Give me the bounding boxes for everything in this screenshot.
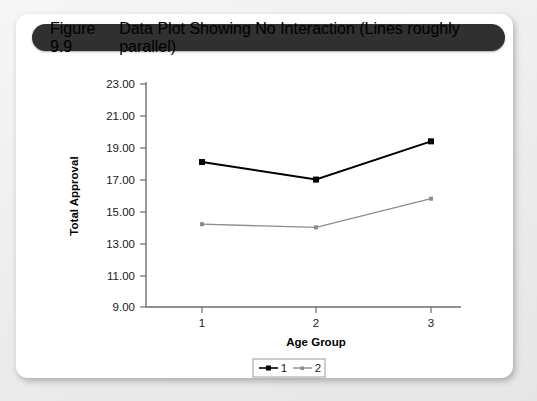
series-line-1 [202, 141, 431, 179]
y-axis-title: Total Approval [68, 156, 80, 235]
y-tick-label-17: 17.00 [106, 174, 135, 186]
data-point-series-1-2 [313, 177, 319, 183]
y-tick-label-15: 15.00 [106, 206, 135, 218]
chart-legend: 1 2 [253, 359, 325, 377]
x-tick-label-2: 2 [313, 317, 319, 329]
legend-label-series-1: 1 [281, 362, 287, 374]
chart-plot-area: 23.00 21.00 19.00 17.00 15.00 13.00 11.0… [16, 51, 513, 378]
y-tick-label-19: 19.00 [106, 142, 135, 154]
data-point-series-2-1 [200, 222, 204, 226]
x-axis-ticks [202, 307, 431, 313]
x-tick-label-3: 3 [428, 317, 434, 329]
x-axis-title: Age Group [286, 336, 345, 348]
legend-marker-series-2 [301, 367, 305, 371]
data-series-layer [199, 138, 434, 229]
series-line-2 [202, 199, 431, 228]
legend-label-series-2: 2 [315, 362, 321, 374]
x-tick-label-1: 1 [199, 317, 205, 329]
figure-card: Figure 9.9 Data Plot Showing No Interact… [16, 14, 513, 378]
y-axis-ticks [140, 84, 146, 307]
data-point-series-2-3 [429, 197, 433, 201]
data-point-series-1-1 [199, 159, 205, 165]
y-tick-label-23: 23.00 [106, 78, 135, 90]
data-point-series-1-3 [428, 138, 434, 144]
y-tick-label-13: 13.00 [106, 238, 135, 250]
y-tick-label-21: 21.00 [106, 110, 135, 122]
legend-marker-series-1 [266, 366, 271, 371]
line-chart: 23.00 21.00 19.00 17.00 15.00 13.00 11.0… [16, 51, 513, 378]
y-tick-label-11: 11.00 [107, 270, 135, 282]
y-tick-label-9: 9.00 [113, 301, 135, 313]
data-point-series-2-2 [314, 225, 318, 229]
figure-header-bar: Figure 9.9 Data Plot Showing No Interact… [32, 24, 505, 51]
